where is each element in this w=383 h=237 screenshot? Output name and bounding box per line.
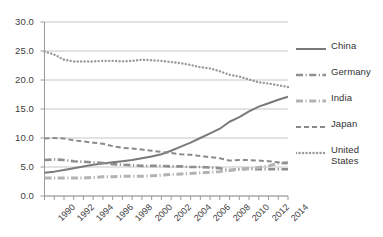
legend-item-china[interactable]: China	[296, 40, 382, 53]
y-tick-label: 5.0	[0, 161, 34, 172]
legend-item-germany[interactable]: Germany	[296, 66, 382, 79]
series-line-united-states	[45, 52, 289, 87]
y-tick-label: 20.0	[0, 74, 34, 85]
legend-label: Germany	[331, 66, 371, 77]
series-line-japan	[45, 138, 289, 164]
legend-swatch-icon	[296, 93, 326, 105]
y-tick-label: 15.0	[0, 103, 34, 114]
series-line-india	[45, 162, 289, 178]
legend-item-united-states[interactable]: United States	[296, 144, 382, 166]
y-tick-label: 30.0	[0, 16, 34, 27]
legend-swatch-icon	[296, 145, 326, 157]
x-axis	[45, 196, 289, 200]
legend-item-india[interactable]: India	[296, 92, 382, 105]
legend-label: United States	[331, 144, 382, 166]
y-axis	[41, 22, 45, 196]
legend-label: China	[331, 40, 356, 51]
y-tick-label: 10.0	[0, 132, 34, 143]
legend-label: Japan	[331, 118, 357, 129]
series-lines	[45, 52, 289, 178]
legend-swatch-icon	[296, 119, 326, 131]
y-tick-label: 25.0	[0, 45, 34, 56]
legend-label: India	[331, 92, 352, 103]
y-tick-label: 0.0	[0, 190, 34, 201]
legend-item-japan[interactable]: Japan	[296, 118, 382, 131]
legend-swatch-icon	[296, 41, 326, 53]
line-chart: 0.05.010.015.020.025.030.0 1990199219941…	[0, 0, 383, 237]
legend-swatch-icon	[296, 67, 326, 79]
